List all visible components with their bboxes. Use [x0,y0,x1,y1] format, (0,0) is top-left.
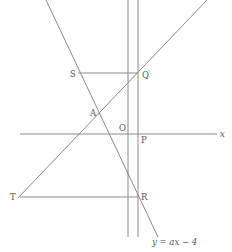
label-p: P [141,135,147,145]
label-t: T [10,192,16,202]
line-through-t-a-q [18,0,207,198]
label-s: S [70,69,76,79]
label-q: Q [142,70,149,80]
label-x-axis: x [220,129,225,139]
label-a: A [89,108,97,118]
geometry-diagram: S Q A O P T R x y = ax − 4 [0,0,232,252]
label-o: O [119,123,126,133]
label-r: R [141,192,148,202]
label-line-equation: y = ax − 4 [151,237,197,247]
